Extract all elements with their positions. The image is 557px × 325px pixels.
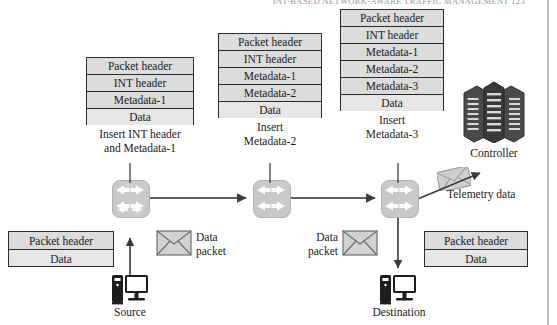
desktop-computer-icon-destination (378, 272, 418, 308)
network-switch-2[interactable] (253, 180, 291, 218)
stack-caption-line2: Metadata-3 (340, 127, 444, 141)
stack-row: Metadata-1 (218, 67, 322, 84)
stack-caption-line1: Insert (218, 120, 322, 134)
switch-to-destination-arrow (392, 218, 404, 274)
stack-caption-line2: and Metadata-1 (86, 141, 194, 155)
destination-label: Destination (358, 306, 440, 319)
controller-label: Controller (444, 147, 544, 160)
link-arrow-switch1-switch2 (150, 191, 254, 205)
stack-hop-1: Packet header INT header Metadata-1 Data… (86, 57, 194, 155)
desktop-computer-icon-source (110, 272, 150, 308)
stack-row: Data (340, 94, 444, 111)
stack-row: Packet header (340, 9, 444, 26)
data-packet-label-right-line2: packet (288, 245, 338, 258)
stack3-switch-connector (393, 163, 403, 183)
stack-caption-line1: Insert INT header (86, 127, 194, 141)
network-switch-1[interactable] (112, 180, 150, 218)
stack-row: INT header (86, 74, 194, 91)
network-switch-3[interactable] (381, 180, 419, 218)
stack-hop-2: Packet header INT header Metadata-1 Meta… (218, 33, 322, 148)
stack-row: INT header (340, 26, 444, 43)
stack1-switch-connector (125, 163, 135, 183)
stack-row: Data (218, 101, 322, 118)
stack-row: Metadata-1 (86, 91, 194, 108)
stack-row: Metadata-3 (340, 77, 444, 94)
envelope-icon-right (342, 230, 378, 256)
stack-row: Metadata-1 (340, 43, 444, 60)
packet-row: Packet header (424, 231, 528, 249)
packet-row: Data (424, 249, 528, 267)
link-arrow-switch2-switch3 (291, 191, 383, 205)
stack-row: Packet header (86, 57, 194, 74)
stack-row: Packet header (218, 33, 322, 50)
packet-row: Packet header (8, 231, 114, 249)
data-packet-label-left-line2: packet (196, 245, 226, 258)
envelope-icon-left (156, 230, 192, 256)
telemetry-label: Telemetry data (447, 188, 515, 201)
figure-int-telemetry-pipeline: INT-BASED NETWORK-AWARE TRAFFIC MANAGEME… (0, 0, 557, 325)
stack-row: INT header (218, 50, 322, 67)
stack-caption-line1: Insert (340, 113, 444, 127)
packet-source: Packet header Data (8, 231, 114, 267)
source-label: Source (95, 306, 165, 319)
packet-row: Data (8, 249, 114, 267)
stack-hop-3: Packet header INT header Metadata-1 Meta… (340, 9, 444, 141)
stack-row: Metadata-2 (340, 60, 444, 77)
server-rack-icon (461, 81, 527, 143)
stack2-switch-connector (265, 163, 275, 183)
packet-destination: Packet header Data (424, 231, 528, 267)
data-packet-label-left-line1: Data (196, 231, 218, 244)
stack-caption-line2: Metadata-2 (218, 134, 322, 148)
stack-row: Metadata-2 (218, 84, 322, 101)
page-margin-rule (547, 0, 549, 325)
data-packet-label-right-line1: Data (288, 231, 338, 244)
stack-row: Data (86, 108, 194, 125)
running-head: INT-BASED NETWORK-AWARE TRAFFIC MANAGEME… (273, 0, 525, 6)
